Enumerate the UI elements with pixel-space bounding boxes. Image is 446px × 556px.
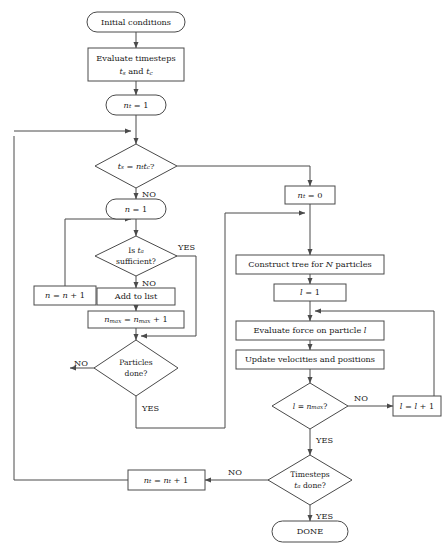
- edge-label-ts-eq-no: NO: [142, 189, 156, 199]
- node-l-increment[interactable]: l = l + 1: [393, 396, 441, 416]
- node-evaluate-force-label: Evaluate force on particle l: [254, 325, 367, 335]
- node-l-init-label: l = 1: [300, 287, 320, 297]
- edge-ntincrement-outerloop: [14, 136, 128, 480]
- node-decision-ts-equals[interactable]: ts = nttc?: [95, 144, 177, 188]
- node-n-init[interactable]: n = 1: [106, 199, 166, 219]
- node-initial-conditions-label: Initial conditions: [101, 17, 171, 27]
- node-evaluate-timesteps-label-line1: Evaluate timesteps: [96, 53, 175, 63]
- node-evaluate-timesteps[interactable]: Evaluate timesteps ts and tc: [88, 48, 184, 81]
- node-decision-ts-sufficient-label-line2: sufficient?: [116, 257, 156, 266]
- node-initial-conditions[interactable]: Initial conditions: [87, 12, 185, 32]
- edges: [14, 32, 434, 521]
- node-n-increment[interactable]: n = n + 1: [34, 286, 96, 305]
- edge-label-l-no: NO: [354, 393, 368, 403]
- node-l-increment-label: l = l + 1: [400, 401, 435, 411]
- node-update-velocities-label: Update velocities and positions: [245, 354, 375, 364]
- edge-label-sufficient-no: NO: [142, 278, 156, 288]
- edge-decision-ts-yes-to-ntzero: [177, 166, 310, 186]
- node-construct-tree-label: Construct tree for N particles: [248, 259, 372, 269]
- node-construct-tree[interactable]: Construct tree for N particles: [236, 255, 384, 274]
- node-n-init-label: n = 1: [125, 204, 148, 214]
- node-nmax-increment[interactable]: nmax = nmax + 1: [88, 311, 184, 328]
- node-done-label: DONE: [297, 526, 323, 536]
- node-decision-particles-label-line1: Particles: [119, 358, 153, 367]
- node-nt-increment[interactable]: nt = nt + 1: [128, 470, 205, 490]
- node-update-velocities[interactable]: Update velocities and positions: [236, 350, 384, 369]
- node-decision-particles-done[interactable]: Particles done?: [94, 340, 178, 396]
- node-nt-zero[interactable]: nt = 0: [285, 186, 335, 204]
- node-l-init[interactable]: l = 1: [274, 284, 346, 301]
- node-n-increment-label: n = n + 1: [45, 290, 85, 300]
- node-decision-particles-label-line2: done?: [125, 369, 148, 378]
- edge-label-particles-no: NO: [74, 358, 88, 368]
- node-nt-init-label: nt = 1: [124, 100, 149, 110]
- node-decision-l-eq-nmax[interactable]: l = nmax?: [272, 383, 348, 429]
- edge-label-sufficient-yes: YES: [177, 242, 195, 252]
- edge-label-particles-yes: YES: [141, 403, 159, 413]
- node-add-to-list[interactable]: Add to list: [97, 288, 175, 305]
- edge-label-l-yes: YES: [315, 435, 333, 445]
- node-evaluate-force[interactable]: Evaluate force on particle l: [236, 321, 384, 340]
- node-done[interactable]: DONE: [272, 521, 348, 542]
- node-decision-timesteps-done[interactable]: Timesteps ta done?: [268, 455, 352, 505]
- node-decision-timesteps-label-line1: Timesteps: [290, 470, 329, 479]
- flowchart-canvas: Initial conditions Evaluate timesteps ts…: [0, 0, 446, 556]
- node-nt-zero-label: nt = 0: [298, 190, 323, 200]
- node-nt-init[interactable]: nt = 1: [106, 95, 166, 115]
- node-nt-increment-label: nt = nt + 1: [144, 475, 188, 485]
- edge-label-timesteps-no: NO: [228, 467, 242, 477]
- node-add-to-list-label: Add to list: [114, 291, 158, 301]
- edge-label-timesteps-yes: YES: [315, 511, 333, 521]
- node-decision-ts-sufficient[interactable]: Is ta sufficient?: [95, 236, 177, 276]
